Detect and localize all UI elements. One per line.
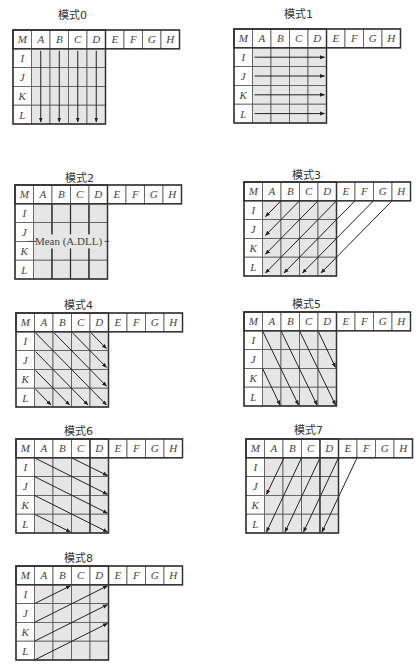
predicted-cell: [89, 204, 108, 223]
mode-title: 模式0: [58, 9, 87, 22]
reference-pixel-label: D: [93, 188, 102, 200]
predicted-cell: [263, 387, 282, 406]
reference-pixel-label: F: [360, 185, 368, 197]
predicted-cell: [72, 604, 91, 623]
predicted-cell: [72, 641, 91, 660]
reference-pixel-label: G: [151, 316, 159, 328]
reference-pixel-label: M: [248, 185, 259, 197]
reference-pixel-label: B: [289, 442, 296, 454]
reference-pixel-label: K: [239, 89, 248, 101]
reference-pixel-label: D: [94, 316, 103, 328]
reference-pixel-label: F: [132, 442, 140, 454]
reference-pixel-label: C: [76, 188, 84, 200]
reference-pixel-label: E: [113, 569, 121, 581]
mode-panel-7: 模式7MABCDEFGHIJKL: [246, 424, 413, 533]
reference-pixel-label: K: [18, 90, 27, 102]
reference-pixel-label: F: [132, 569, 140, 581]
predicted-cell: [281, 350, 300, 369]
intra-prediction-modes-diagram: 模式0MABCDEFGHIJKL模式1MABCDEFGHIJKL模式2MABCD…: [0, 0, 420, 670]
predicted-cell: [35, 495, 54, 514]
predicted-cell: [318, 350, 337, 369]
mode-panel-0: 模式0MABCDEFGHIJKL: [13, 9, 180, 124]
reference-pixel-label: A: [267, 315, 275, 327]
reference-pixel-label: G: [150, 188, 158, 200]
reference-pixel-label: H: [386, 32, 396, 44]
reference-pixel-label: D: [94, 569, 103, 581]
reference-pixel-label: A: [39, 316, 47, 328]
predicted-cell: [300, 368, 319, 387]
reference-pixel-label: B: [58, 188, 65, 200]
reference-pixel-label: F: [360, 315, 368, 327]
predicted-cell: [72, 585, 91, 604]
mode-title: 模式6: [64, 425, 93, 438]
reference-pixel-label: G: [381, 442, 389, 454]
predicted-cell: [265, 495, 284, 514]
reference-pixel-label: G: [369, 32, 377, 44]
reference-pixel-label: K: [249, 242, 258, 254]
reference-pixel-label: F: [131, 188, 139, 200]
reference-pixel-label: M: [17, 33, 28, 45]
predicted-cell: [318, 331, 337, 350]
mode-panel-6: 模式6MABCDEFGHIJKL: [16, 425, 183, 533]
predicted-cell: [53, 585, 72, 604]
reference-pixel-label: B: [59, 316, 66, 328]
reference-pixel-label: L: [249, 391, 256, 403]
reference-pixel-label: K: [249, 372, 258, 384]
predicted-cell: [89, 260, 108, 279]
predicted-cell: [320, 477, 339, 496]
predicted-cell: [90, 604, 109, 623]
predicted-cell: [90, 458, 109, 477]
mode-title: 模式7: [294, 424, 323, 437]
predicted-cell: [265, 458, 284, 477]
predicted-cell: [90, 641, 109, 660]
reference-pixel-label: G: [151, 569, 159, 581]
mode-panel-4: 模式4MABCDEFGHIJKL: [16, 299, 183, 407]
reference-pixel-label: H: [168, 569, 178, 581]
reference-pixel-label: F: [132, 316, 140, 328]
mode-title: 模式4: [64, 299, 93, 312]
predicted-cell: [300, 331, 319, 350]
predicted-cell: [72, 477, 91, 496]
reference-pixel-label: D: [324, 442, 333, 454]
predicted-cell: [263, 331, 282, 350]
predicted-cell: [90, 622, 109, 641]
reference-pixel-label: B: [59, 442, 66, 454]
reference-pixel-label: D: [322, 315, 331, 327]
reference-pixel-label: C: [305, 315, 313, 327]
reference-pixel-label: L: [18, 109, 25, 121]
reference-pixel-label: L: [21, 392, 28, 404]
predicted-cell: [53, 622, 72, 641]
reference-pixel-label: B: [287, 315, 294, 327]
mode-panel-5: 模式5MABCDEFGHIJKL: [244, 298, 411, 406]
predicted-cell: [320, 458, 339, 477]
predicted-cell: [72, 495, 91, 514]
reference-pixel-label: B: [277, 32, 284, 44]
reference-pixel-label: H: [396, 315, 406, 327]
predicted-cell: [302, 458, 321, 477]
predicted-cell: [52, 260, 71, 279]
reference-pixel-label: K: [21, 626, 30, 638]
mode-panel-2: 模式2MABCDEFGHIJKLMean (A.DLL): [15, 172, 182, 279]
predicted-cell: [281, 387, 300, 406]
predicted-cell: [302, 495, 321, 514]
reference-pixel-label: K: [21, 373, 30, 385]
mode-panel-1: 模式1MABCDEFGHIJKL: [234, 8, 401, 123]
predicted-cell: [300, 350, 319, 369]
mode-title: 模式5: [292, 298, 321, 311]
mean-label: Mean (A.DLL): [35, 235, 103, 248]
predicted-cell: [34, 204, 53, 223]
reference-pixel-label: H: [167, 188, 177, 200]
predicted-cell: [281, 368, 300, 387]
reference-pixel-label: M: [19, 188, 30, 200]
predicted-cell: [90, 585, 109, 604]
reference-pixel-label: E: [343, 442, 351, 454]
mode-panel-8: 模式8MABCDEFGHIJKL: [16, 552, 183, 660]
predicted-cell: [318, 387, 337, 406]
predicted-cell: [53, 477, 72, 496]
reference-pixel-label: A: [38, 188, 46, 200]
reference-pixel-label: C: [305, 185, 313, 197]
mode-panel-3: 模式3MABCDEFGHIJKL: [244, 169, 411, 276]
reference-pixel-label: L: [239, 108, 246, 120]
reference-pixel-label: M: [20, 442, 31, 454]
reference-pixel-label: K: [21, 499, 30, 511]
